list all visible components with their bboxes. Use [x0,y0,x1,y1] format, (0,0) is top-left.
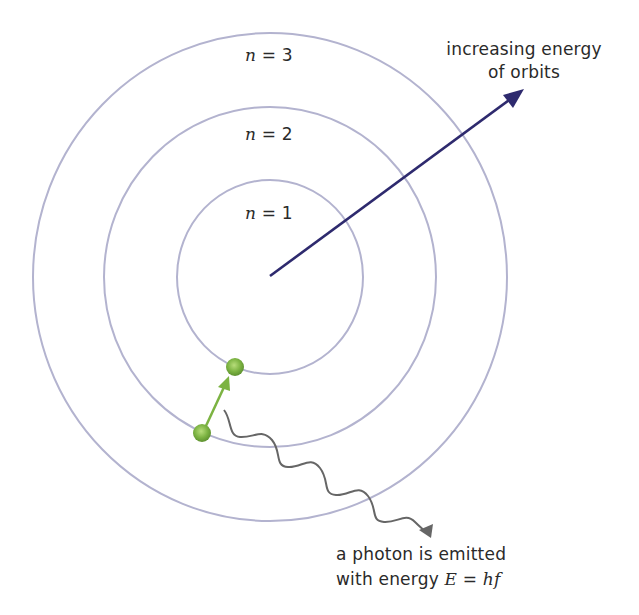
orbit-label-n2: n = 2 [245,124,293,144]
electron-before [193,424,211,442]
photon-label-line1: a photon is emitted [336,542,506,567]
bohr-diagram [0,0,639,615]
photon-label: a photon is emitted with energy E = hf [336,542,506,592]
increasing-energy-arrow [270,89,524,276]
photon-wave-arrow [224,410,433,538]
electron-transition-arrow [205,376,230,428]
orbit-label-n1: n = 1 [245,203,293,223]
electron-after [226,358,244,376]
orbit-label-n3: n = 3 [245,45,293,65]
photon-label-line2: with energy E = hf [336,567,506,592]
energy-label: increasing energy of orbits [432,38,616,84]
energy-label-line1: increasing energy [432,38,616,61]
orbit-n2 [104,107,436,447]
energy-label-line2: of orbits [432,61,616,84]
